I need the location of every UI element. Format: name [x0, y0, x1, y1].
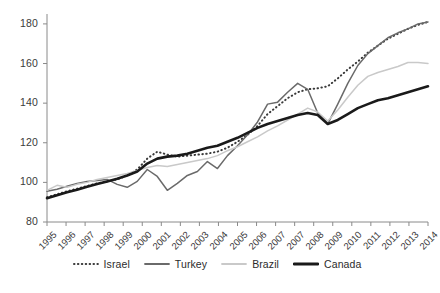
y-tick-label: 180 — [8, 17, 38, 29]
legend-item-canada[interactable]: Canada — [293, 258, 361, 270]
y-tick-label: 80 — [8, 215, 38, 227]
legend-item-turkey[interactable]: Turkey — [144, 258, 207, 270]
legend-swatch-turkey-icon — [144, 259, 170, 269]
legend-label: Israel — [104, 258, 130, 270]
legend-label: Brazil — [252, 258, 279, 270]
series-line-brazil — [47, 63, 428, 191]
legend-label: Turkey — [175, 258, 207, 270]
axes-group — [47, 14, 428, 222]
legend-label: Canada — [324, 258, 361, 270]
data-series-group — [47, 22, 428, 198]
legend-swatch-canada-icon — [293, 259, 319, 269]
chart-legend: IsraelTurkeyBrazilCanada — [0, 258, 434, 270]
legend-item-israel[interactable]: Israel — [73, 258, 130, 270]
y-tick-label: 160 — [8, 57, 38, 69]
y-tick-marks — [43, 24, 47, 222]
y-tick-label: 120 — [8, 136, 38, 148]
legend-item-brazil[interactable]: Brazil — [221, 258, 279, 270]
legend-swatch-brazil-icon — [221, 259, 247, 269]
x-tick-marks — [47, 222, 428, 226]
series-line-turkey — [47, 22, 428, 191]
series-line-israel — [47, 22, 428, 197]
legend-swatch-israel-icon — [73, 259, 99, 269]
series-line-canada — [47, 86, 428, 198]
y-tick-label: 100 — [8, 175, 38, 187]
y-tick-label: 140 — [8, 96, 38, 108]
